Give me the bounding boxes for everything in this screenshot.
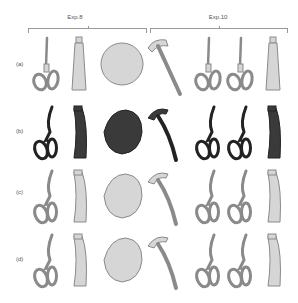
scissors-render (194, 168, 224, 232)
ball-render (98, 232, 144, 296)
hammer-render (146, 168, 186, 232)
tube-render (262, 36, 286, 100)
hammer-render (146, 104, 186, 168)
tube-render (262, 104, 286, 168)
hammer-render (146, 36, 186, 100)
ball-render (98, 104, 144, 168)
tube-render (262, 168, 286, 232)
row-label-b: (b) (16, 128, 23, 134)
scissors-render (226, 104, 256, 168)
scissors-render (226, 232, 256, 296)
group-bracket-exp10 (150, 28, 288, 33)
row-label-d: (d) (16, 256, 23, 262)
scissors-render (194, 36, 224, 100)
ball-render (98, 168, 144, 232)
group-label-exp8: Exp.8 (60, 14, 90, 20)
scissors-render (226, 36, 256, 100)
bracket-tick (88, 26, 89, 29)
tube-render (68, 232, 90, 296)
tube-render (262, 232, 286, 296)
scissors-render (194, 104, 224, 168)
group-label-exp10: Exp.10 (203, 14, 233, 20)
scissors-render (226, 168, 256, 232)
scissors-render (32, 104, 62, 168)
tube-render (68, 36, 90, 100)
bracket-tick (219, 26, 220, 29)
group-bracket-exp8 (28, 28, 147, 33)
scissors-render (194, 232, 224, 296)
row-label-a: (a) (16, 61, 23, 67)
tube-render (68, 104, 90, 168)
ball-render (98, 36, 144, 100)
row-label-c: (c) (16, 189, 23, 195)
scissors-render (32, 36, 62, 100)
hammer-render (146, 232, 186, 296)
scissors-render (32, 232, 62, 296)
scissors-render (32, 168, 62, 232)
tube-render (68, 168, 90, 232)
